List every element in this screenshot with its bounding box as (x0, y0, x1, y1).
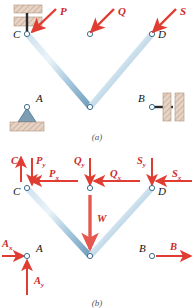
load-label-S: S (180, 5, 186, 17)
force-label-C: C (11, 155, 19, 166)
panel-b-forces (2, 157, 192, 295)
force-label-Ay: Ay (33, 275, 45, 289)
joint-B (149, 253, 154, 258)
panel-a-canvas: P Q S C D A B (0, 0, 194, 150)
force-label-Py: Py (36, 155, 46, 169)
force-label-Ax: Ax (1, 238, 13, 252)
panel-b-canvas: C Py Px Qy Qx Sy Sx W Ax Ay B C D A B (0, 150, 194, 306)
load-label-P: P (60, 5, 67, 17)
force-label-Qx: Qx (110, 168, 122, 182)
panel-b: C Py Px Qy Qx Sy Sx W Ax Ay B C D A B (b… (0, 150, 194, 306)
joint-label-A: A (35, 92, 43, 104)
joint-D (149, 185, 154, 190)
force-label-Sx: Sx (172, 168, 182, 182)
pin-support-A (10, 108, 44, 131)
joint-label-C: C (13, 185, 21, 197)
joint-T (87, 185, 92, 190)
joint-label-A: A (35, 242, 43, 254)
joint-A (24, 104, 29, 109)
force-label-W: W (97, 213, 107, 224)
joint-label-B: B (139, 242, 146, 254)
load-arrow-Q (91, 9, 114, 32)
force-label-Sy: Sy (137, 155, 147, 169)
joint-label-D: D (157, 185, 166, 197)
joint-label-D: D (157, 28, 166, 40)
joint-label-B: B (138, 92, 145, 104)
load-label-Q: Q (118, 5, 126, 17)
panel-a: P Q S C D A B (a) (0, 0, 194, 150)
panel-a-loads (32, 9, 176, 32)
joint-C (24, 185, 29, 190)
force-label-Qy: Qy (74, 155, 86, 169)
joint-label-C: C (13, 28, 21, 40)
force-label-Px: Px (49, 168, 59, 182)
caption-a: (a) (0, 132, 194, 142)
panel-a-members (27, 34, 152, 107)
joint-B (149, 104, 154, 109)
joint-E (87, 104, 92, 109)
link-support-B (152, 93, 184, 121)
joint-A (24, 253, 29, 258)
force-label-B: B (169, 241, 177, 252)
joint-C (24, 31, 29, 36)
caption-b: (b) (0, 298, 194, 308)
joint-E (87, 253, 92, 258)
